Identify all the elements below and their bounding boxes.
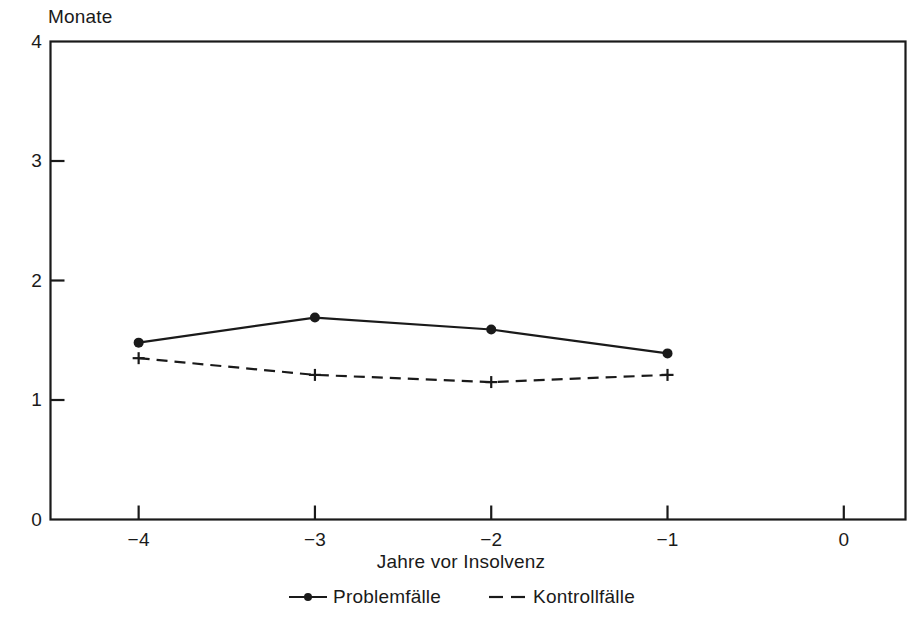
series-line xyxy=(139,358,668,382)
data-point-marker xyxy=(663,348,673,358)
x-tick-label: 0 xyxy=(814,530,874,549)
plot-frame xyxy=(51,42,906,520)
x-axis-title: Jahre vor Insolvenz xyxy=(0,551,922,573)
data-series-group xyxy=(133,313,674,389)
y-tick-label: 4 xyxy=(8,32,42,51)
legend-label: Problemfälle xyxy=(333,586,441,608)
legend-item-kontrollfaelle: Kontrollfälle xyxy=(487,586,635,608)
x-tick-label: −2 xyxy=(461,530,521,549)
x-tick-label: −1 xyxy=(638,530,698,549)
data-series xyxy=(133,352,674,388)
y-axis-title: Monate xyxy=(48,6,113,28)
y-tick-label: 1 xyxy=(8,390,42,409)
x-axis-ticks xyxy=(139,506,844,520)
y-tick-label: 0 xyxy=(8,510,42,529)
series-line xyxy=(139,318,668,354)
y-axis-ticks xyxy=(51,161,65,400)
data-point-marker xyxy=(486,324,496,334)
chart-legend: Problemfälle Kontrollfälle xyxy=(0,586,922,608)
y-tick-label: 2 xyxy=(8,271,42,290)
x-tick-label: −3 xyxy=(285,530,345,549)
dashed-line-marker-icon xyxy=(487,590,529,604)
y-tick-label: 3 xyxy=(8,151,42,170)
chart-figure: Monate 43210 −4−3−2−10 Jahre vor Insolve… xyxy=(0,0,922,619)
data-point-marker xyxy=(134,338,144,348)
solid-line-marker-icon xyxy=(287,590,329,604)
x-tick-label: −4 xyxy=(109,530,169,549)
data-point-marker xyxy=(310,313,320,323)
data-series xyxy=(134,313,673,359)
legend-label: Kontrollfälle xyxy=(533,586,635,608)
legend-item-problemfaelle: Problemfälle xyxy=(287,586,441,608)
plot-canvas xyxy=(0,0,922,619)
